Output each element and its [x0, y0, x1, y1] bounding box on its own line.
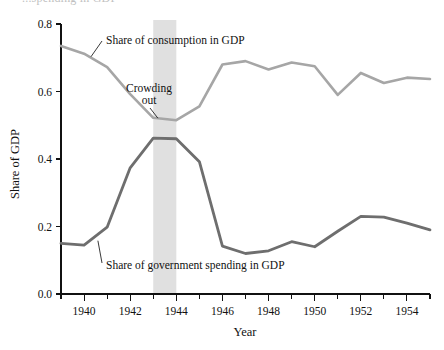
x-tick-label: 1940 — [73, 305, 96, 317]
y-axis-tick-labels: 0.00.20.40.60.8 — [38, 18, 53, 300]
series-line-consumption — [61, 46, 430, 120]
crowding-out-label-line2: out — [142, 94, 158, 106]
x-tick-label: 1942 — [119, 305, 142, 317]
consumption-series-label: Share of consumption in GDP — [106, 34, 245, 47]
consumption-leader-line — [91, 41, 102, 57]
government-leader-line — [98, 241, 102, 263]
x-axis-title: Year — [233, 325, 257, 339]
x-axis-ticks — [61, 294, 430, 301]
x-tick-label: 1954 — [395, 305, 418, 317]
y-axis-title: Share of GDP — [8, 129, 22, 199]
line-chart: 0.00.20.40.60.8 194019421944194619481950… — [0, 0, 444, 350]
x-tick-label: 1952 — [349, 305, 372, 317]
x-tick-label: 1950 — [303, 305, 326, 317]
y-tick-label: 0.2 — [38, 221, 53, 233]
chart-figure: ...spending in GDP 0.00.20.40.60.8 19401… — [0, 0, 444, 350]
x-tick-label: 1946 — [211, 305, 234, 317]
x-tick-label: 1944 — [165, 305, 188, 317]
government-spending-series-label: Share of government spending in GDP — [106, 259, 285, 272]
y-tick-label: 0.8 — [38, 18, 53, 30]
y-tick-label: 0.0 — [38, 288, 53, 300]
crowding-out-band — [153, 20, 176, 294]
x-tick-label: 1948 — [257, 305, 280, 317]
y-tick-label: 0.6 — [38, 86, 53, 98]
y-axis-ticks — [56, 24, 61, 294]
y-tick-label: 0.4 — [38, 153, 53, 165]
x-axis-tick-labels: 19401942194419461948195019521954 — [73, 305, 419, 317]
series-line-government-spending — [61, 138, 430, 253]
